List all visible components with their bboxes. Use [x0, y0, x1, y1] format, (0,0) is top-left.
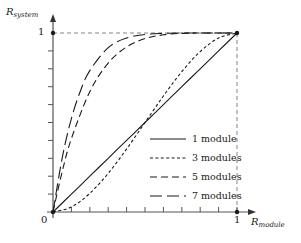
reliability-chart [0, 0, 301, 243]
y-axis-label-base: R [6, 6, 14, 17]
y-axis-label: Rsystem [6, 6, 38, 19]
x-tick-label-1: 1 [234, 214, 240, 225]
x-axis-label-base: R [251, 216, 259, 227]
legend-label-5-modules: 5 modules [192, 171, 242, 182]
x-tick-label-0: 0 [41, 214, 47, 225]
y-axis-label-subscript: system [14, 11, 39, 19]
x-axis-label: Rmodule [251, 216, 285, 229]
point-marker-0-1 [51, 31, 55, 35]
legend-label-3-modules: 3 modules [192, 152, 242, 163]
legend-label-1-module: 1 module [192, 133, 237, 144]
x-axis-label-subscript: module [259, 221, 285, 229]
legend-label-7-modules: 7 modules [192, 190, 242, 201]
y-tick-label-1: 1 [38, 26, 44, 37]
